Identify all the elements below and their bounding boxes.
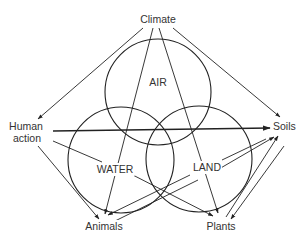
edge-plants-soils <box>226 136 278 217</box>
region-water-label: WATER <box>96 163 135 176</box>
edge-human-action-plants <box>53 141 213 216</box>
region-land-label: LAND <box>192 161 222 174</box>
edge-climate-human-action <box>38 28 143 119</box>
water-circle <box>68 107 174 213</box>
node-human-action-line2: action <box>12 132 42 145</box>
edge-climate-animals <box>105 28 153 214</box>
node-animals: Animals <box>84 220 123 233</box>
diagram-canvas: Climate Human action Soils Animals Plant… <box>0 0 306 241</box>
node-soils: Soils <box>272 120 297 133</box>
region-air-label: AIR <box>148 76 168 89</box>
diagram-graphic <box>0 0 306 241</box>
edge-climate-soils <box>173 28 280 117</box>
node-climate: Climate <box>139 13 177 26</box>
edge-human-action-soils <box>53 128 270 131</box>
node-plants: Plants <box>205 220 236 233</box>
